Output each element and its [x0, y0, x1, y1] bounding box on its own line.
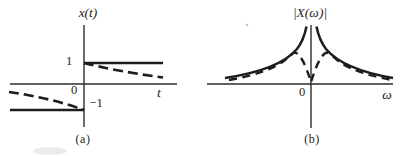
panel-a-caption: (a)	[76, 133, 91, 145]
panel-b-xlabel: ω	[382, 88, 392, 102]
panel-a-xlabel: t	[157, 86, 161, 100]
panel-a-tick-plus-one: 1	[66, 55, 72, 68]
panel-a-ylabel: x(t)	[79, 6, 98, 20]
panel-a-tick-minus-one: −1	[89, 97, 102, 110]
scan-smudge	[33, 147, 67, 155]
figure-canvas: x(t) 1 0 −1 t (a) |X(ω)| 0 ω (b)	[0, 0, 407, 156]
panel-b-tick-zero: 0	[299, 86, 305, 99]
scan-speck	[246, 24, 249, 27]
panel-b-caption: (b)	[304, 133, 320, 145]
figure-drawing	[0, 0, 407, 156]
panel-a-tick-zero: 0	[71, 84, 77, 97]
panel-b-ylabel: |X(ω)|	[293, 6, 327, 20]
panel-a-exponential-dashed-right	[84, 63, 163, 78]
